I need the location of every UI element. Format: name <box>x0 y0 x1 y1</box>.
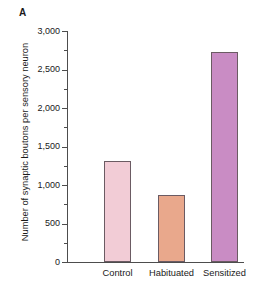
y-tick-major <box>62 147 67 148</box>
plot-area: 05001,0001,5002,0002,5003,000 <box>67 31 244 262</box>
y-tick-label: 0 <box>22 258 60 267</box>
y-tick-label: 1,000 <box>22 181 60 190</box>
y-axis-tick-labels: 05001,0001,5002,0002,5003,000 <box>20 31 60 262</box>
y-axis-line <box>67 31 68 262</box>
y-tick-label: 2,500 <box>22 65 60 74</box>
y-tick-label: 2,000 <box>22 104 60 113</box>
bar-habituated <box>158 195 185 262</box>
y-tick-label: 1,500 <box>22 142 60 151</box>
y-tick-minor <box>64 166 67 167</box>
y-tick-label: 3,000 <box>22 27 60 36</box>
y-tick-minor <box>64 243 67 244</box>
y-tick-minor <box>64 89 67 90</box>
y-tick-major <box>62 262 67 263</box>
y-tick-major <box>62 185 67 186</box>
y-tick-major <box>62 224 67 225</box>
bar-sensitized <box>211 52 238 262</box>
y-tick-major <box>62 108 67 109</box>
x-axis-line <box>67 262 244 263</box>
panel-letter-label: A <box>19 7 26 18</box>
y-tick-major <box>62 31 67 32</box>
figure-panel-a: A Number of synaptic boutons per sensory… <box>0 0 261 300</box>
x-axis-tick-labels: ControlHabituatedSensitized <box>67 268 252 282</box>
y-tick-minor <box>64 50 67 51</box>
x-tick-label-sensitized: Sensitized <box>185 268 262 279</box>
y-tick-minor <box>64 204 67 205</box>
bar-control <box>104 161 131 262</box>
y-tick-minor <box>64 127 67 128</box>
y-tick-label: 500 <box>22 219 60 228</box>
y-tick-major <box>62 70 67 71</box>
